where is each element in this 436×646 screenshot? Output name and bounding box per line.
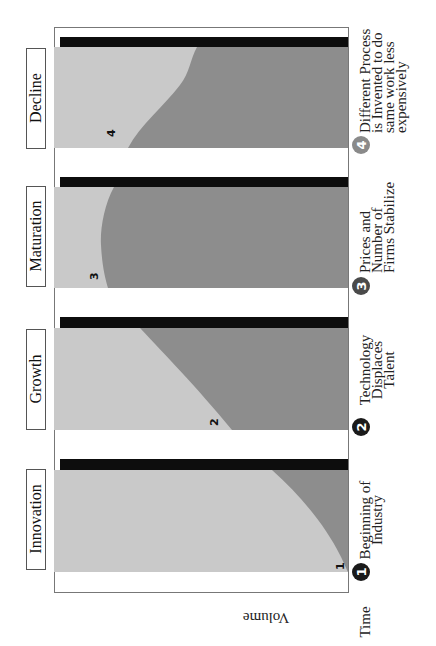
marker-4: 4 xyxy=(105,129,118,137)
svg-text:Growth: Growth xyxy=(27,355,44,404)
stage-label-growth: Growth xyxy=(27,330,46,430)
bar-decline xyxy=(60,37,348,47)
panel-maturation: 3 xyxy=(54,177,348,288)
svg-text:Innovation: Innovation xyxy=(27,484,44,553)
axis-label-volume: Volume xyxy=(242,610,289,626)
svg-text:Decline: Decline xyxy=(27,73,44,123)
axis-label-time: Time xyxy=(357,606,373,637)
stage-label-maturation: Maturation xyxy=(27,187,46,287)
svg-text:expensively: expensively xyxy=(393,61,409,133)
svg-text:Industry: Industry xyxy=(369,495,385,545)
marker-2: 2 xyxy=(208,418,221,426)
svg-text:3: 3 xyxy=(354,281,369,290)
note-innovation: 1 Beginning of Industry xyxy=(352,481,385,581)
svg-text:1: 1 xyxy=(354,567,369,576)
svg-text:2: 2 xyxy=(354,422,369,431)
panel-innovation: 1 xyxy=(54,459,348,572)
svg-text:Talent: Talent xyxy=(381,351,397,389)
bar-growth xyxy=(60,317,348,328)
stage-label-innovation: Innovation xyxy=(27,470,46,570)
stage-label-decline: Decline xyxy=(27,49,46,149)
panel-growth: 2 xyxy=(54,317,348,430)
note-maturation: 3 Prices and Number of Firms Stabilize xyxy=(352,181,397,295)
note-growth: 2 Technology Displaces Talent xyxy=(352,334,397,436)
note-decline: 4 Different Process is Invented to do sa… xyxy=(352,29,409,154)
industry-lifecycle-diagram: 4 3 2 1 Decline Maturation Growth Innova… xyxy=(0,0,436,646)
panel-decline: 4 xyxy=(54,37,348,148)
bar-maturation xyxy=(60,177,348,187)
svg-text:Firms Stabilize: Firms Stabilize xyxy=(381,181,397,273)
marker-1: 1 xyxy=(334,562,347,570)
marker-3: 3 xyxy=(88,272,101,280)
svg-text:4: 4 xyxy=(354,140,369,149)
bar-innovation xyxy=(60,459,348,470)
dark-region-maturation xyxy=(101,187,348,288)
svg-text:Maturation: Maturation xyxy=(27,200,44,271)
